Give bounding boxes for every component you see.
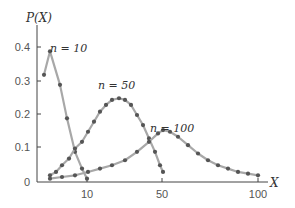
data-point <box>86 130 90 134</box>
data-point <box>98 167 102 171</box>
series-line-1 <box>50 98 163 175</box>
data-point <box>135 113 139 117</box>
data-point <box>60 163 64 167</box>
data-point <box>98 110 102 114</box>
svg-text:0.2: 0.2 <box>15 108 30 120</box>
data-point <box>186 143 190 147</box>
data-point <box>135 150 139 154</box>
series-layer <box>42 49 260 180</box>
data-point <box>58 83 62 87</box>
label-n50: n = 50 <box>98 79 135 92</box>
data-point <box>123 158 127 162</box>
data-point <box>141 123 145 127</box>
data-point <box>42 73 46 77</box>
data-point <box>176 135 180 139</box>
data-point <box>226 167 230 171</box>
svg-text:100: 100 <box>249 188 267 200</box>
svg-text:0: 0 <box>24 176 30 188</box>
data-point <box>117 96 121 100</box>
series-line-0 <box>44 51 87 178</box>
data-point <box>123 98 127 102</box>
binomial-distribution-chart: 0.4 0.3 0.2 0.1 0 10 50 100 P(X) X n = 1… <box>0 0 295 208</box>
data-point <box>161 170 165 174</box>
y-axis-title: P(X) <box>25 11 52 25</box>
data-point <box>67 156 71 160</box>
data-point <box>60 175 64 179</box>
data-point <box>73 173 77 177</box>
data-point <box>246 172 250 176</box>
data-point <box>80 140 84 144</box>
data-point <box>65 116 69 120</box>
data-point <box>92 120 96 124</box>
data-point <box>85 177 89 181</box>
data-point <box>73 146 77 150</box>
data-point <box>104 103 108 107</box>
label-n100: n = 100 <box>150 122 194 135</box>
data-point <box>196 151 200 155</box>
svg-text:0.1: 0.1 <box>15 141 30 153</box>
data-point <box>54 170 58 174</box>
data-point <box>48 177 52 181</box>
data-point <box>147 140 151 144</box>
x-tick-labels: 10 50 100 <box>81 188 267 200</box>
data-point <box>110 98 114 102</box>
svg-text:0.4: 0.4 <box>15 41 30 53</box>
y-tick-labels: 0.4 0.3 0.2 0.1 0 <box>15 41 30 188</box>
y-ticks <box>37 47 41 147</box>
data-point <box>80 167 84 171</box>
data-point <box>110 163 114 167</box>
data-point <box>86 170 90 174</box>
data-point <box>153 150 157 154</box>
label-n10: n = 10 <box>50 42 87 55</box>
x-ticks <box>87 178 258 182</box>
svg-text:0.3: 0.3 <box>15 75 30 87</box>
x-axis-title: X <box>269 176 279 190</box>
data-point <box>158 163 162 167</box>
svg-text:10: 10 <box>81 188 93 200</box>
data-point <box>129 103 133 107</box>
data-point <box>256 173 260 177</box>
data-point <box>206 158 210 162</box>
data-point <box>216 163 220 167</box>
series-line-2 <box>50 130 258 179</box>
svg-text:50: 50 <box>156 188 168 200</box>
data-point <box>236 170 240 174</box>
